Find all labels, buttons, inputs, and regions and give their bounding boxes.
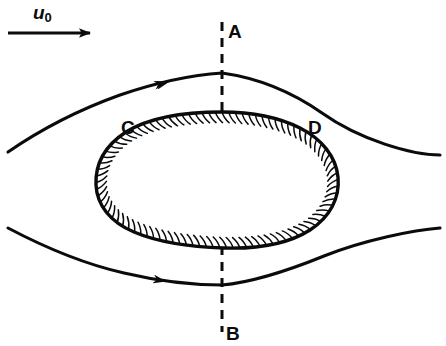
point-label-b: B (226, 324, 240, 343)
point-label-c: C (121, 118, 135, 137)
freestream-velocity-subscript: 0 (45, 10, 52, 25)
point-label-d: D (308, 118, 322, 137)
flow-diagram-figure: u0 A B C D (0, 0, 446, 346)
point-label-a: A (228, 22, 242, 41)
freestream-velocity-symbol: u (33, 2, 45, 23)
flow-diagram-canvas (0, 0, 446, 346)
freestream-velocity-label: u0 (33, 3, 52, 22)
